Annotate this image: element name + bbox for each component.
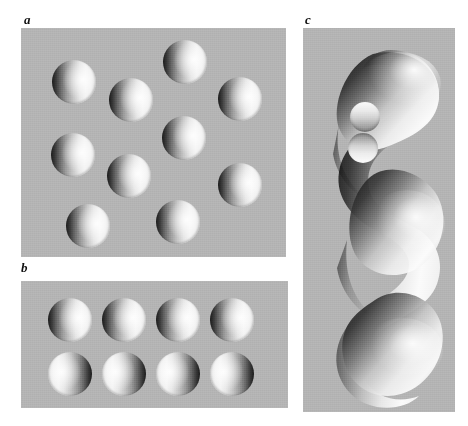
crater-bump [350, 102, 380, 132]
shaded-disc [162, 116, 206, 160]
shaded-disc [51, 133, 95, 177]
shaded-disc [210, 352, 254, 396]
shaded-disc [163, 40, 207, 84]
shaded-disc [156, 200, 200, 244]
crater-dimple [348, 133, 378, 163]
shaded-disc [156, 352, 200, 396]
panel-b [21, 281, 288, 408]
shaded-disc [156, 298, 200, 342]
serpentine-solid-svg [303, 28, 455, 412]
panel-a [21, 28, 286, 257]
panel-label-c: c [305, 13, 311, 26]
shaded-disc [218, 163, 262, 207]
shaded-disc [66, 204, 110, 248]
shaded-disc [102, 352, 146, 396]
shaded-disc [48, 298, 92, 342]
panel-c-serpentine-solid [303, 28, 455, 412]
shape-from-shading-figure: a b c [0, 0, 468, 426]
shaded-disc [218, 77, 262, 121]
panel-label-b: b [21, 261, 28, 274]
panel-a-disc-array [21, 28, 286, 257]
serpentine-highlight-3 [363, 318, 443, 382]
shaded-disc [48, 352, 92, 396]
panel-c [303, 28, 455, 412]
serpentine-highlight-2 [369, 190, 445, 258]
panel-label-a: a [24, 13, 31, 26]
shaded-disc [102, 298, 146, 342]
panel-b-disc-array [21, 281, 288, 408]
shaded-disc [52, 60, 96, 104]
shaded-disc [210, 298, 254, 342]
shaded-disc [109, 78, 153, 122]
shaded-disc [107, 154, 151, 198]
